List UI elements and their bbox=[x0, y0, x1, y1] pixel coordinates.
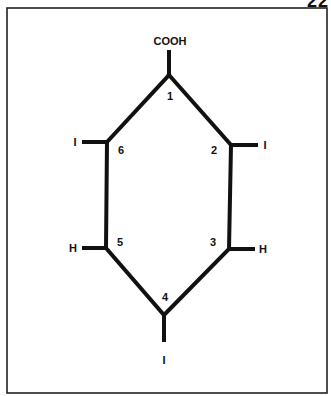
label-iodine-2: I bbox=[263, 139, 266, 151]
position-number-3: 3 bbox=[210, 236, 216, 248]
ring-bonds bbox=[106, 75, 231, 315]
label-hydrogen-3: H bbox=[259, 243, 267, 255]
position-number-2: 2 bbox=[211, 144, 217, 156]
position-number-5: 5 bbox=[117, 236, 123, 248]
label-iodine-6: I bbox=[73, 136, 76, 148]
position-number-1: 1 bbox=[167, 90, 173, 102]
position-number-6: 6 bbox=[118, 144, 124, 156]
label-hydrogen-5: H bbox=[69, 242, 77, 254]
benzene-ring bbox=[106, 75, 231, 315]
triiodobenzoic-acid-diagram: COOH I H I H I 1 2 3 4 5 6 bbox=[0, 0, 331, 396]
position-number-4: 4 bbox=[162, 291, 169, 303]
label-cooh: COOH bbox=[154, 35, 187, 47]
label-iodine-4: I bbox=[162, 354, 165, 366]
